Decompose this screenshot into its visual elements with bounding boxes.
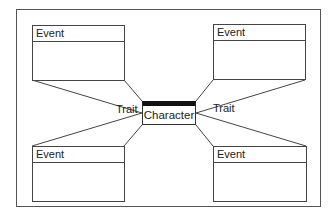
- event-label: Event: [214, 25, 305, 41]
- event-label: Event: [33, 26, 124, 42]
- event-box-top-right: Event: [213, 24, 306, 80]
- trait-label-left: Trait: [116, 103, 138, 115]
- event-label: Event: [214, 147, 306, 163]
- trait-label-right: Trait: [213, 102, 235, 114]
- event-label: Event: [33, 147, 124, 163]
- event-box-bottom-left: Event: [32, 146, 125, 202]
- character-trait-diagram: Event Event Event Event Character Trait …: [0, 0, 336, 224]
- character-box: Character: [142, 101, 196, 125]
- event-box-top-left: Event: [32, 25, 125, 81]
- event-box-bottom-right: Event: [213, 146, 307, 202]
